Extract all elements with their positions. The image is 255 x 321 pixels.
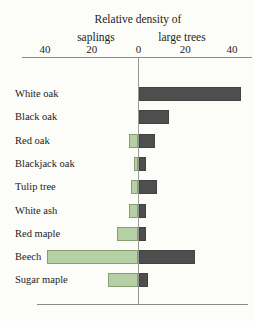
axis-tick-label: 0 (136, 43, 142, 55)
chart-title: Relative density of (95, 13, 182, 25)
top-axis-line (22, 57, 252, 58)
bottom-axis-line (37, 304, 248, 305)
sapling-bar (129, 204, 138, 218)
large-tree-bar (139, 250, 195, 264)
category-label: White ash (15, 204, 57, 218)
sapling-bar (108, 273, 138, 287)
category-label: Red maple (15, 227, 60, 241)
category-label: Blackjack oak (15, 157, 75, 171)
axis-tick-label: 20 (86, 43, 97, 55)
axis-tick-label: 40 (40, 43, 51, 55)
category-label: Red oak (15, 134, 50, 148)
category-label: Sugar maple (15, 273, 68, 287)
sapling-bar (129, 134, 138, 148)
sapling-bar (131, 180, 138, 194)
diverging-bar-chart: Relative density of saplings large trees… (0, 0, 255, 321)
large-tree-bar (139, 157, 146, 171)
large-tree-bar (139, 227, 146, 241)
category-label: Beech (15, 250, 41, 264)
sapling-bar (117, 227, 138, 241)
axis-tick-label: 20 (180, 43, 191, 55)
category-label: Black oak (15, 110, 57, 124)
large-tree-bar (139, 180, 158, 194)
large-tree-bar (139, 204, 146, 218)
right-series-label: large trees (158, 31, 205, 43)
category-label: Tulip tree (15, 180, 56, 194)
sapling-bar (47, 250, 138, 264)
large-tree-bar (139, 110, 169, 124)
left-series-label: saplings (77, 31, 115, 43)
large-tree-bar (139, 134, 155, 148)
axis-tick-label: 40 (226, 43, 237, 55)
category-label: White oak (15, 87, 58, 101)
large-tree-bar (139, 273, 148, 287)
large-tree-bar (139, 87, 242, 101)
